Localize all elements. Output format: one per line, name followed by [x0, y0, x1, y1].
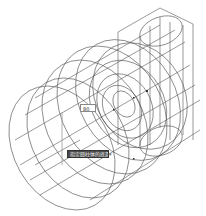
dynamic-input-field[interactable]: 80 — [80, 104, 96, 112]
cad-viewport[interactable] — [0, 0, 206, 216]
inner-ellipse-3 — [94, 78, 149, 138]
chevron-down-icon[interactable]: ▾ — [109, 152, 112, 157]
command-prompt-tooltip: 指定圆柱体的底面半径 — [67, 150, 109, 158]
front-flange-ellipse — [0, 67, 137, 216]
body-ellipse-1 — [20, 41, 169, 203]
body-ellipse-2 — [35, 26, 190, 194]
vertical-cylinder-bottom — [136, 120, 187, 161]
